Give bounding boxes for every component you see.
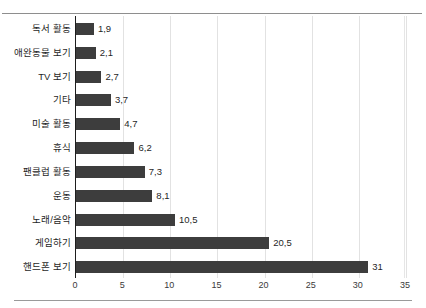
bar-row: 운동8,1 bbox=[0, 183, 406, 209]
value-label: 6,2 bbox=[138, 135, 151, 161]
value-label: 4,7 bbox=[124, 111, 137, 137]
bar-row: 애완동물 보기2,1 bbox=[0, 40, 406, 66]
bar-row: 독서 활동1,9 bbox=[0, 16, 406, 42]
category-label: 애완동물 보기 bbox=[0, 40, 71, 66]
chart-page: 독서 활동1,9애완동물 보기2,1TV 보기2,7기타3,7미술 활동4,7휴… bbox=[0, 0, 426, 308]
value-label: 2,1 bbox=[100, 40, 113, 66]
value-label: 8,1 bbox=[156, 183, 169, 209]
bar bbox=[76, 214, 175, 226]
bar-row: TV 보기2,7 bbox=[0, 64, 406, 90]
category-label: 운동 bbox=[0, 183, 71, 209]
category-label: 노래/음악 bbox=[0, 207, 71, 233]
category-label: 독서 활동 bbox=[0, 16, 71, 42]
category-label: 게임하기 bbox=[0, 230, 71, 256]
bottom-divider-rule bbox=[14, 300, 412, 301]
bar-row: 게임하기20,5 bbox=[0, 230, 406, 256]
bar-row: 팬클럽 활동7,3 bbox=[0, 159, 406, 185]
x-tick-label: 25 bbox=[306, 280, 316, 290]
x-tick-label: 35 bbox=[400, 280, 410, 290]
bar bbox=[76, 118, 120, 130]
category-label: 휴식 bbox=[0, 135, 71, 161]
bar bbox=[76, 190, 152, 202]
x-tick-label: 20 bbox=[259, 280, 269, 290]
bar bbox=[76, 71, 101, 83]
bar-chart: 독서 활동1,9애완동물 보기2,1TV 보기2,7기타3,7미술 활동4,7휴… bbox=[0, 16, 406, 278]
bar bbox=[76, 261, 368, 273]
category-label: TV 보기 bbox=[0, 64, 71, 90]
bar bbox=[76, 237, 269, 249]
category-label: 핸드폰 보기 bbox=[0, 254, 71, 280]
top-divider-rule bbox=[2, 13, 422, 14]
bar-row: 미술 활동4,7 bbox=[0, 111, 406, 137]
bar bbox=[76, 47, 96, 59]
value-label: 1,9 bbox=[98, 16, 111, 42]
bar-rows: 독서 활동1,9애완동물 보기2,1TV 보기2,7기타3,7미술 활동4,7휴… bbox=[0, 16, 406, 278]
value-label: 7,3 bbox=[149, 159, 162, 185]
x-axis: 05101520253035 bbox=[0, 278, 426, 300]
gridline-35 bbox=[406, 16, 407, 278]
x-tick-label: 0 bbox=[72, 280, 77, 290]
bar-row: 휴식6,2 bbox=[0, 135, 406, 161]
category-label: 미술 활동 bbox=[0, 111, 71, 137]
value-label: 3,7 bbox=[115, 87, 128, 113]
bar-row: 기타3,7 bbox=[0, 87, 406, 113]
bar bbox=[76, 166, 145, 178]
bar-row: 핸드폰 보기31 bbox=[0, 254, 406, 280]
bar bbox=[76, 23, 94, 35]
x-tick-label: 15 bbox=[211, 280, 221, 290]
category-label: 팬클럽 활동 bbox=[0, 159, 71, 185]
x-tick-label: 10 bbox=[164, 280, 174, 290]
bar-row: 노래/음악10,5 bbox=[0, 207, 406, 233]
value-label: 20,5 bbox=[273, 230, 292, 256]
bar bbox=[76, 142, 134, 154]
value-label: 10,5 bbox=[179, 207, 198, 233]
bar bbox=[76, 94, 111, 106]
category-label: 기타 bbox=[0, 87, 71, 113]
x-tick-label: 5 bbox=[120, 280, 125, 290]
value-label: 31 bbox=[372, 254, 383, 280]
value-label: 2,7 bbox=[105, 64, 118, 90]
x-tick-label: 30 bbox=[353, 280, 363, 290]
